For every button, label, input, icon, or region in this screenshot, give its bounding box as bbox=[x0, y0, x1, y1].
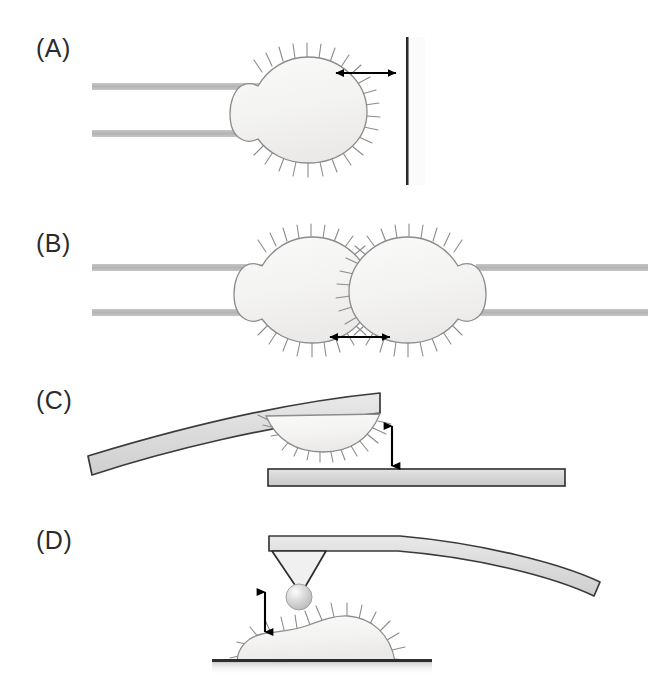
filament-bar-bottom-left bbox=[92, 309, 272, 316]
colloidal-sphere bbox=[286, 584, 312, 610]
cantilever-beam bbox=[269, 536, 600, 596]
wall-shading bbox=[409, 37, 425, 185]
panel-c-graphic bbox=[88, 393, 565, 486]
substrate-slab bbox=[268, 469, 565, 486]
panel-a-cell bbox=[230, 43, 380, 177]
probe-tip bbox=[272, 551, 326, 594]
cell-villi bbox=[336, 224, 462, 357]
cell-membrane bbox=[237, 616, 395, 661]
baseline-shading bbox=[212, 662, 432, 675]
panel-label-c: (C) bbox=[36, 386, 72, 415]
panel-b-cell-right bbox=[336, 224, 486, 357]
cell-villi bbox=[258, 415, 391, 462]
panel-b-graphic bbox=[92, 224, 648, 357]
panel-label-d: (D) bbox=[36, 526, 72, 555]
cell-membrane bbox=[234, 237, 371, 343]
cell-villi bbox=[258, 224, 384, 357]
panel-b-cell-left bbox=[234, 224, 384, 357]
panel-a-graphic bbox=[92, 37, 425, 185]
panel-d-graphic bbox=[212, 536, 600, 675]
filament-bar-top-right bbox=[476, 264, 648, 271]
filament-bar-bottom bbox=[92, 130, 268, 137]
panel-b-filaments-right bbox=[476, 264, 648, 316]
cell-membrane bbox=[349, 237, 486, 343]
flat-wall-surface bbox=[406, 37, 409, 185]
cell-villi bbox=[254, 43, 380, 177]
figure-canvas: (A) (B) (C) (D) bbox=[0, 0, 672, 700]
panel-label-b: (B) bbox=[36, 229, 71, 258]
panel-a-filaments bbox=[92, 83, 268, 137]
cantilever-beam bbox=[88, 393, 380, 475]
filament-bar-bottom-right bbox=[476, 309, 648, 316]
filament-bar-top bbox=[92, 83, 268, 90]
cell-membrane bbox=[266, 414, 380, 452]
panel-b-filaments-left bbox=[92, 264, 272, 316]
figure-drawing-layer bbox=[0, 0, 672, 700]
panel-d-cell bbox=[230, 603, 407, 661]
flat-substrate-baseline bbox=[212, 659, 432, 662]
cell-villi bbox=[230, 603, 407, 660]
filament-bar-top-left bbox=[92, 264, 272, 271]
panel-c-cell bbox=[258, 414, 391, 462]
panel-label-a: (A) bbox=[36, 34, 71, 63]
cell-membrane bbox=[230, 57, 367, 163]
